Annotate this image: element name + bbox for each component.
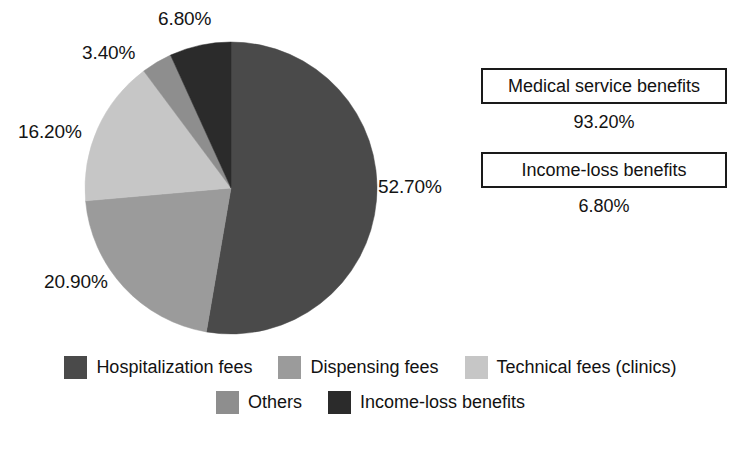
legend-label-technical-fees: Technical fees (clinics) (497, 357, 677, 378)
pie-chart: 52.70% 20.90% 16.20% 3.40% 6.80% (0, 0, 470, 350)
pie-label-dispensing-fees: 20.90% (44, 271, 108, 293)
legend-swatch-icon-hospitalization-fees (64, 356, 87, 379)
pie-label-income-loss-benefits: 6.80% (158, 8, 211, 30)
pie-slice-dispensing-fees (86, 188, 231, 332)
summary-block-income-loss-benefits: Income-loss benefits 6.80% (481, 152, 727, 217)
legend-label-others: Others (248, 392, 302, 413)
legend-label-income-loss-benefits: Income-loss benefits (360, 392, 525, 413)
pie-chart-svg (0, 0, 470, 350)
summary-panel: Medical service benefits 93.20% Income-l… (481, 68, 727, 236)
pie-slice-hospitalization-fees (206, 42, 377, 334)
pie-label-others: 3.40% (82, 42, 135, 64)
legend-item-dispensing-fees: Dispensing fees (278, 356, 438, 379)
legend-item-technical-fees: Technical fees (clinics) (465, 356, 677, 379)
legend-row-2: Others Income-loss benefits (0, 391, 741, 414)
legend-swatch-icon-dispensing-fees (278, 356, 301, 379)
chart-legend: Hospitalization fees Dispensing fees Tec… (0, 356, 741, 426)
legend-item-hospitalization-fees: Hospitalization fees (64, 356, 252, 379)
summary-value-medical-service-benefits: 93.20% (481, 112, 727, 133)
legend-label-hospitalization-fees: Hospitalization fees (96, 357, 252, 378)
legend-swatch-icon-others (216, 391, 239, 414)
summary-box-medical-service-benefits: Medical service benefits (481, 68, 727, 104)
summary-value-income-loss-benefits: 6.80% (481, 196, 727, 217)
summary-box-income-loss-benefits: Income-loss benefits (481, 152, 727, 188)
summary-block-medical-service-benefits: Medical service benefits 93.20% (481, 68, 727, 133)
legend-item-others: Others (216, 391, 302, 414)
pie-label-technical-fees: 16.20% (18, 121, 82, 143)
legend-row-1: Hospitalization fees Dispensing fees Tec… (0, 356, 741, 379)
legend-item-income-loss-benefits: Income-loss benefits (328, 391, 525, 414)
legend-swatch-icon-technical-fees (465, 356, 488, 379)
summary-label-medical-service-benefits: Medical service benefits (508, 76, 700, 97)
chart-page: 52.70% 20.90% 16.20% 3.40% 6.80% Medical… (0, 0, 741, 454)
pie-slice-group (85, 42, 377, 334)
pie-label-hospitalization-fees: 52.70% (378, 176, 442, 198)
summary-label-income-loss-benefits: Income-loss benefits (521, 160, 686, 181)
legend-label-dispensing-fees: Dispensing fees (310, 357, 438, 378)
legend-swatch-icon-income-loss-benefits (328, 391, 351, 414)
